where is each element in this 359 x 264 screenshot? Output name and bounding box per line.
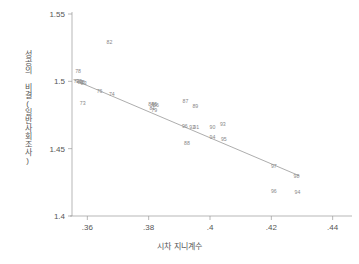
- x-axis-title: 시차 지니계수: [0, 240, 359, 251]
- data-point-label: 76: [97, 88, 103, 94]
- data-point-label: 83: [81, 80, 87, 86]
- plot-area: 1.41.451.51.55.36.38.4.42.44727877807583…: [0, 0, 359, 264]
- data-point-label: 87: [183, 98, 189, 104]
- y-tick-label: 1.45: [49, 145, 65, 154]
- data-point-label: 94: [295, 189, 301, 195]
- x-tick-label: .4: [207, 223, 214, 232]
- data-point-label: 96: [271, 188, 277, 194]
- y-tick-label: 1.4: [54, 212, 66, 221]
- data-point-label: 88: [184, 140, 190, 146]
- data-point-label: 79: [151, 107, 157, 113]
- y-tick-label: 1.5: [54, 77, 66, 86]
- data-point-label: 90: [210, 124, 216, 130]
- y-tick-label: 1.55: [49, 10, 65, 19]
- data-point-label: 96: [182, 123, 188, 129]
- scatter-chart: 1.41.451.51.55.36.38.4.42.44727877807583…: [0, 0, 359, 264]
- x-tick-label: .36: [82, 223, 94, 232]
- x-tick-label: .44: [327, 223, 339, 232]
- data-point-label: 78: [75, 68, 81, 74]
- data-point-label: 94: [210, 134, 216, 140]
- data-point-label: 82: [107, 39, 113, 45]
- y-axis-title: 성공의 비결(일반사회조사): [6, 50, 32, 165]
- data-point-label: 93: [220, 121, 226, 127]
- data-point-label: 95: [221, 136, 227, 142]
- x-tick-label: .42: [266, 223, 278, 232]
- data-point-label: 98: [294, 173, 300, 179]
- data-point-label: 97: [271, 163, 277, 169]
- data-point-label: 74: [109, 91, 115, 97]
- data-point-label: 89: [192, 103, 198, 109]
- x-tick-label: .38: [143, 223, 155, 232]
- data-point-label: 91: [193, 124, 199, 130]
- data-point-label: 73: [80, 100, 86, 106]
